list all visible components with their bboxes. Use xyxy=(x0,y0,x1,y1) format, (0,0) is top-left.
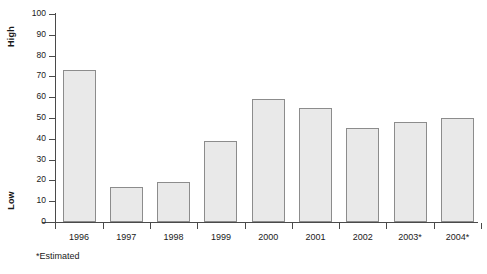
y-tick-label-text: 20 xyxy=(20,175,46,184)
y-tick-label-text: 40 xyxy=(20,134,46,143)
bar-1999 xyxy=(204,141,237,222)
y-tick-label-text: 60 xyxy=(20,92,46,101)
y-tick-label: 10 xyxy=(20,196,46,206)
x-tick-label: 2004* xyxy=(429,233,485,242)
x-tick-mark xyxy=(339,223,340,229)
y-axis-ticks: 1009080706050403020100 xyxy=(0,0,55,274)
y-tick-label: 30 xyxy=(20,155,46,165)
bar-1997 xyxy=(110,187,143,222)
x-tick-mark xyxy=(55,223,56,229)
y-tick-label: 60 xyxy=(20,92,46,102)
bar-1998 xyxy=(157,182,190,222)
y-tick-label-text: 30 xyxy=(20,155,46,164)
footnote-estimated: *Estimated xyxy=(36,252,80,261)
bar-chart: High Low 1009080706050403020100 19961997… xyxy=(0,0,487,274)
x-tick-mark xyxy=(103,223,104,229)
y-tick-label: 20 xyxy=(20,175,46,185)
bar-2001 xyxy=(299,108,332,222)
plot-area xyxy=(55,14,478,222)
x-tick-mark xyxy=(150,223,151,229)
y-tick-label-text: 0 xyxy=(20,217,46,226)
x-tick-mark xyxy=(197,223,198,229)
x-tick-mark xyxy=(292,223,293,229)
x-tick-mark xyxy=(245,223,246,229)
x-tick-mark xyxy=(386,223,387,229)
y-tick-label-text: 100 xyxy=(20,9,46,18)
y-tick-label-text: 50 xyxy=(20,113,46,122)
y-tick-label-text: 70 xyxy=(20,71,46,80)
y-tick-label: 40 xyxy=(20,134,46,144)
bar-1996 xyxy=(63,70,96,222)
y-tick-label: 100 xyxy=(20,9,46,19)
bar-2002 xyxy=(346,128,379,222)
y-tick-label: 0 xyxy=(20,217,46,227)
y-tick-label: 50 xyxy=(20,113,46,123)
x-tick-mark xyxy=(481,223,482,229)
y-tick-label: 80 xyxy=(20,51,46,61)
bar-2000 xyxy=(252,99,285,222)
bar-2003-est xyxy=(394,122,427,222)
bar-2004-est xyxy=(441,118,474,222)
x-tick-mark xyxy=(434,223,435,229)
y-tick-label: 90 xyxy=(20,30,46,40)
y-tick-label-text: 10 xyxy=(20,196,46,205)
x-axis-line xyxy=(42,222,478,223)
y-tick-label-text: 90 xyxy=(20,30,46,39)
y-tick-label-text: 80 xyxy=(20,51,46,60)
y-tick-label: 70 xyxy=(20,71,46,81)
